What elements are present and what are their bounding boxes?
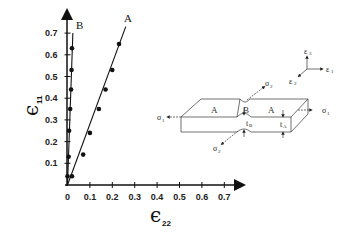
region-b: B (243, 105, 249, 115)
y-tick-label: 0.1 (45, 158, 58, 168)
e2-sub: 2 (294, 81, 297, 86)
data-point (81, 152, 86, 157)
e2-label: ε (289, 77, 293, 86)
sigma2-top-arrow (247, 87, 264, 100)
x-tick-label: 0.4 (151, 192, 164, 202)
x-axis-subscript: 22 (162, 219, 171, 228)
sigma2-bottom-sub: 2 (218, 149, 221, 154)
triad-labels: ε 3 ε 1 ε 2 (289, 47, 334, 86)
x-axis-symbol: ϵ (150, 203, 161, 227)
sigma1-left-sub: 1 (162, 118, 165, 123)
specimen-diagram (168, 87, 311, 144)
x-tick-label: 0.5 (173, 192, 186, 202)
data-point (68, 107, 73, 112)
data-point (67, 128, 72, 133)
b-region-edge (237, 99, 240, 117)
data-point (65, 174, 70, 179)
tb-sub: B (249, 123, 253, 128)
data-point (88, 131, 93, 136)
x-tick-label: 0.2 (106, 192, 119, 202)
figure: 0.10.20.30.40.50.60.7 00.10.20.30.40.50.… (0, 0, 350, 239)
region-a-right: A (268, 105, 275, 115)
y-tick-label: 0.4 (45, 93, 58, 103)
y-tick-label: 0.5 (45, 72, 58, 82)
sigma2-top-sub: 2 (270, 84, 273, 89)
y-tick-label: 0.2 (45, 137, 58, 147)
data-point (117, 42, 122, 47)
x-tick-label: 0.1 (84, 192, 97, 202)
e2-axis (299, 69, 307, 76)
series-a (68, 27, 126, 185)
e1-sub: 1 (331, 69, 334, 74)
y-axis-subscript: 11 (35, 95, 44, 104)
y-axis-label: ϵ 11 (19, 95, 44, 116)
data-series (65, 27, 126, 185)
e3-sub: 3 (309, 51, 312, 56)
side-face (291, 99, 308, 132)
data-point (110, 68, 115, 73)
region-a-left: A (211, 105, 218, 115)
diagram-labels: A B A σ 1 σ 1 σ 2 σ 2 t B t A (157, 79, 330, 154)
y-axis-symbol: ϵ (19, 105, 43, 116)
series-label-b: B (76, 19, 83, 31)
data-point (66, 154, 71, 159)
data-point (103, 87, 108, 92)
x-tick-label: 0.7 (218, 192, 231, 202)
sigma1-right-sub: 1 (327, 111, 330, 116)
series-line (68, 27, 126, 185)
data-point (69, 68, 74, 73)
x-axis-label: ϵ 22 (150, 203, 171, 228)
y-tick-label: 0.3 (45, 115, 58, 125)
series-label-a: A (124, 12, 132, 24)
data-point (69, 87, 74, 92)
y-tick-label: 0.7 (45, 28, 58, 38)
y-tick-label: 0.6 (45, 50, 58, 60)
plot-axes (65, 14, 240, 186)
x-tick-label: 0.6 (196, 192, 209, 202)
x-tick-label: 0.3 (128, 192, 141, 202)
sigma2-bottom-arrow (222, 131, 238, 144)
data-point (70, 46, 75, 51)
x-tick-label: 0 (65, 192, 70, 202)
front-face (181, 117, 291, 132)
e1-label: ε (326, 65, 330, 74)
data-point (97, 107, 102, 112)
coordinate-triad (299, 57, 322, 76)
ta-sub: A (283, 124, 287, 129)
data-point (70, 174, 75, 179)
e3-label: ε (304, 47, 308, 56)
